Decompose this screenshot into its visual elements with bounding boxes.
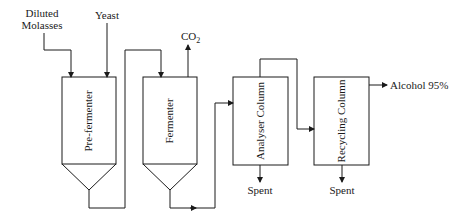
co2-label: CO2 bbox=[181, 30, 200, 45]
process-flow-diagram: Diluted Molasses Yeast Pre-fermenter Fer… bbox=[0, 0, 466, 217]
molasses-feed-line bbox=[44, 33, 71, 77]
analyser-to-recycling-line bbox=[260, 59, 314, 129]
molasses-label-line2: Molasses bbox=[22, 19, 63, 31]
alcohol-output-label: Alcohol 95% bbox=[390, 79, 448, 91]
recycling-spent-label: Spent bbox=[329, 184, 354, 196]
pre-fermenter-label: Pre-fermenter bbox=[82, 90, 94, 151]
fermenter-to-analyser-line bbox=[170, 103, 233, 208]
analyser-column-label: Analyser Column bbox=[254, 82, 266, 160]
fermenter-label: Fermenter bbox=[163, 98, 175, 144]
yeast-label: Yeast bbox=[95, 9, 119, 21]
analyser-spent-label: Spent bbox=[247, 184, 272, 196]
recycling-column-label: Recycling Column bbox=[335, 79, 347, 162]
molasses-label-line1: Diluted bbox=[26, 7, 59, 19]
prefermenter-to-fermenter-line bbox=[89, 50, 161, 208]
